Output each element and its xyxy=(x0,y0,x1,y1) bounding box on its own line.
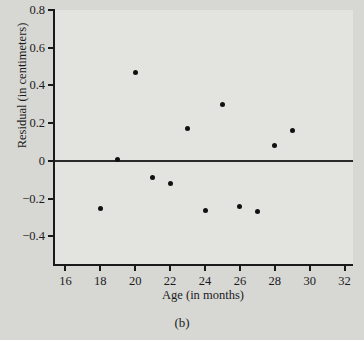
data-point xyxy=(150,175,155,180)
y-tick-mark xyxy=(48,9,55,11)
figure-caption: (b) xyxy=(0,315,364,331)
y-tick-mark xyxy=(48,84,55,86)
data-point xyxy=(290,128,295,133)
x-tick-mark xyxy=(344,264,346,271)
x-tick-label: 30 xyxy=(303,274,316,289)
y-tick-mark xyxy=(48,47,55,49)
x-tick-mark xyxy=(134,264,136,271)
data-point xyxy=(98,206,103,211)
data-point xyxy=(255,209,260,214)
x-tick-mark xyxy=(309,264,311,271)
x-tick-label: 26 xyxy=(234,274,247,289)
data-point xyxy=(237,204,242,209)
y-tick-label: 0 xyxy=(39,153,45,168)
x-tick-label: 24 xyxy=(199,274,212,289)
y-tick-mark xyxy=(48,235,55,237)
scatter-plot-area: 0.80.60.40.20−0.2−0.4 161820222426283032 xyxy=(53,10,353,266)
data-point xyxy=(133,70,138,75)
x-axis-label: Age (in months) xyxy=(53,288,353,303)
y-tick-label: 0.2 xyxy=(29,116,45,131)
x-tick-label: 16 xyxy=(59,274,72,289)
data-point xyxy=(272,143,277,148)
x-tick-label: 20 xyxy=(129,274,142,289)
y-tick-label: 0.8 xyxy=(29,3,45,18)
y-axis-label: Residual (in centimeters) xyxy=(15,0,30,196)
y-tick-mark xyxy=(48,122,55,124)
x-tick-mark xyxy=(239,264,241,271)
data-point xyxy=(203,208,208,213)
y-tick-label: 0.4 xyxy=(29,78,45,93)
x-tick-label: 32 xyxy=(338,274,351,289)
data-point xyxy=(185,126,190,131)
data-point xyxy=(220,102,225,107)
x-tick-mark xyxy=(274,264,276,271)
y-tick-label: −0.4 xyxy=(22,229,45,244)
y-tick-label: 0.6 xyxy=(29,40,45,55)
y-tick-mark xyxy=(48,198,55,200)
x-tick-mark xyxy=(64,264,66,271)
x-tick-label: 22 xyxy=(164,274,177,289)
zero-reference-line xyxy=(55,160,353,162)
x-tick-mark xyxy=(204,264,206,271)
y-tick-mark xyxy=(48,160,55,162)
x-tick-label: 28 xyxy=(269,274,282,289)
x-tick-mark xyxy=(169,264,171,271)
data-point xyxy=(115,157,120,162)
figure-panel: 0.80.60.40.20−0.2−0.4 161820222426283032… xyxy=(0,0,364,340)
x-tick-mark xyxy=(99,264,101,271)
x-tick-label: 18 xyxy=(94,274,107,289)
data-point xyxy=(168,181,173,186)
